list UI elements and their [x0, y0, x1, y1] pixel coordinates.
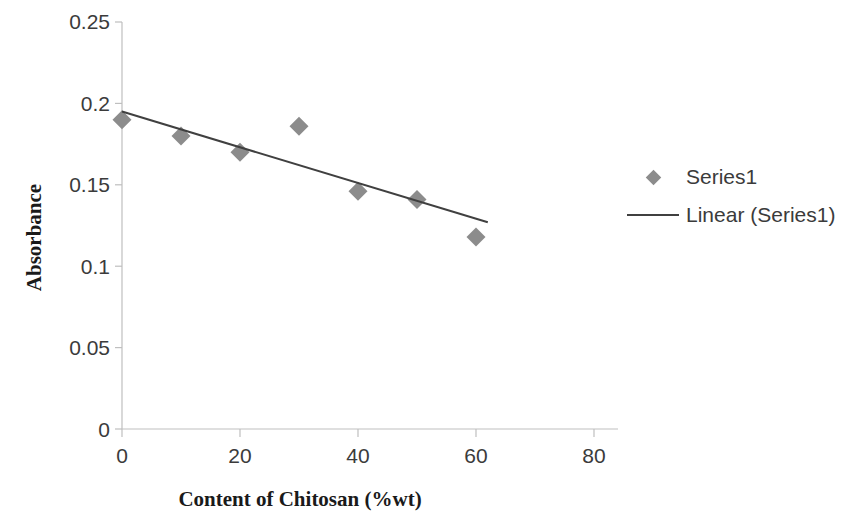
- x-tick-label: 20: [210, 444, 270, 468]
- y-tick-label: 0.2: [28, 92, 110, 116]
- legend-item-linear-series1[interactable]: Linear (Series1): [620, 196, 847, 234]
- data-point-marker[interactable]: [467, 227, 486, 246]
- chart-container: 0.25 0.2 0.15 0.1 0.05 0 0 20 40 60 80 C…: [0, 0, 847, 527]
- x-tick-label: 80: [564, 444, 624, 468]
- y-tick-label: 0: [28, 418, 110, 442]
- legend-label: Series1: [686, 165, 757, 189]
- data-point-marker[interactable]: [290, 117, 309, 136]
- legend-label: Linear (Series1): [686, 203, 835, 227]
- y-axis-title: Absorbance: [22, 138, 47, 338]
- y-tick-label: 0.25: [28, 10, 110, 34]
- x-tick-label: 0: [92, 444, 152, 468]
- y-tick-label: 0.05: [28, 336, 110, 360]
- chart-legend: Series1 Linear (Series1): [620, 158, 847, 234]
- line-marker-icon: [620, 214, 686, 216]
- x-tick-label: 40: [328, 444, 388, 468]
- x-tick-label: 60: [446, 444, 506, 468]
- legend-item-series1[interactable]: Series1: [620, 158, 847, 196]
- x-axis-title: Content of Chitosan (%wt): [0, 487, 600, 512]
- diamond-marker-icon: [620, 172, 686, 183]
